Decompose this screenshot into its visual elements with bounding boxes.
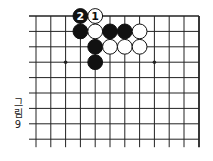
white-stone [132, 24, 147, 39]
black-stone [117, 24, 132, 39]
white-stone: 1 [88, 9, 103, 24]
black-stone [88, 55, 103, 70]
move-number: 1 [91, 10, 99, 23]
move-number: 2 [77, 10, 85, 23]
star-point [153, 60, 157, 64]
go-board-diagram: 21 [0, 0, 213, 161]
white-stone [103, 39, 118, 54]
caption-char-2: 림 [10, 108, 26, 119]
star-point [64, 60, 68, 64]
caption-char-3: 9 [10, 119, 26, 130]
black-stone: 2 [73, 9, 88, 24]
black-stone [73, 24, 88, 39]
black-stone [103, 24, 118, 39]
white-stone [88, 24, 103, 39]
white-stone [132, 39, 147, 54]
figure-caption: 그 림 9 [10, 97, 26, 130]
white-stone [117, 39, 132, 54]
caption-char-1: 그 [10, 97, 26, 108]
black-stone [88, 39, 103, 54]
